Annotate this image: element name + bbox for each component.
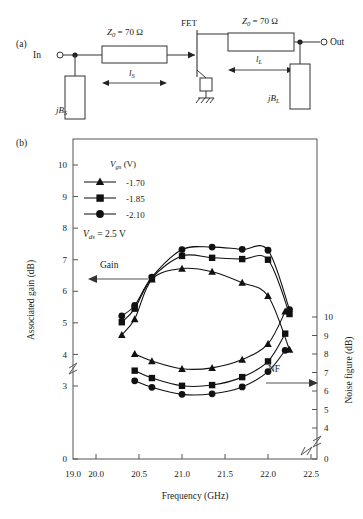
z0-load-label: Z0 = 70 Ω <box>242 16 278 27</box>
svg-text:6: 6 <box>324 386 329 396</box>
svg-text:10: 10 <box>58 160 68 170</box>
chart-series-curves <box>118 244 293 398</box>
svg-text:22.0: 22.0 <box>260 469 276 479</box>
plot-frame <box>73 139 317 459</box>
svg-text:22.5: 22.5 <box>303 469 319 479</box>
z0-source-label: Z0 = 70 Ω <box>107 27 143 38</box>
series-2 <box>119 253 293 326</box>
series-1 <box>118 265 293 353</box>
panel-a-circuit: (a) In jBS Z0 = 70 Ω lS FET <box>16 16 345 119</box>
svg-text:3: 3 <box>63 381 68 391</box>
gain-annotation-label: Gain <box>100 260 119 270</box>
series-3 <box>118 244 293 320</box>
panel-a-label: (a) <box>16 39 27 50</box>
source-dim-arrow-left-icon <box>102 80 109 86</box>
svg-text:20.0: 20.0 <box>88 469 104 479</box>
circle-marker-icon <box>96 210 104 218</box>
legend-item-3: -2.10 <box>84 210 145 220</box>
legend-label-1: -1.70 <box>126 178 145 188</box>
svg-text:9: 9 <box>324 331 329 341</box>
source-length-label: lS <box>129 68 136 79</box>
svg-text:8: 8 <box>63 223 68 233</box>
load-dim-arrow-left-icon <box>228 67 235 73</box>
svg-text:10: 10 <box>324 312 334 322</box>
fet-label: FET <box>181 18 198 28</box>
load-length-label: lL <box>256 54 263 65</box>
svg-text:9: 9 <box>63 192 68 202</box>
load-susceptance-box <box>290 64 310 109</box>
source-dim-arrow-right-icon <box>160 80 167 86</box>
page-bleed-text <box>0 0 363 10</box>
svg-text:20.5: 20.5 <box>131 469 147 479</box>
circuit-out-label: Out <box>330 37 345 47</box>
legend-title: Vgs (V) <box>110 159 136 170</box>
y-axis-title: Associated gain (dB) <box>26 260 37 340</box>
svg-text:5: 5 <box>324 405 329 415</box>
square-marker-icon <box>96 194 103 201</box>
svg-text:7: 7 <box>324 368 329 378</box>
svg-text:5: 5 <box>63 318 68 328</box>
svg-text:4: 4 <box>63 350 68 360</box>
series-5 <box>132 330 289 389</box>
svg-text:7: 7 <box>63 255 68 265</box>
nf-annotation-label: NF <box>268 364 280 374</box>
panel-b-label: (b) <box>16 138 27 149</box>
svg-text:0: 0 <box>63 454 68 464</box>
signal-arrow-icon <box>188 52 195 59</box>
svg-text:0: 0 <box>324 454 329 464</box>
figure-svg: (a) In jBS Z0 = 70 Ω lS FET <box>0 0 363 519</box>
source-transmission-line <box>102 46 167 63</box>
triangle-marker-icon <box>96 178 104 185</box>
load-transmission-line <box>228 33 294 51</box>
source-susceptance-box <box>65 76 85 119</box>
series-6 <box>131 347 288 398</box>
vds-annotation: Vds = 2.5 V <box>83 229 126 240</box>
svg-text:21.5: 21.5 <box>217 469 233 479</box>
y2-axis-title: Noise figure (dB) <box>344 336 355 403</box>
svg-text:8: 8 <box>324 349 329 359</box>
gain-arrow-left-icon <box>88 275 97 283</box>
fet-source-element <box>200 78 212 91</box>
figure-container: (a) In jBS Z0 = 70 Ω lS FET <box>0 0 363 519</box>
x-axis-title: Frequency (GHz) <box>162 491 229 502</box>
legend-label-2: -1.85 <box>126 194 145 204</box>
out-terminal-icon <box>321 39 327 45</box>
legend-label-3: -2.10 <box>126 210 145 220</box>
ground-symbol-icon <box>196 98 214 103</box>
fet-source-wire <box>197 70 206 78</box>
chart-legend: Vgs (V) -1.70 -1.85 -2.10 <box>84 159 145 220</box>
svg-text:4: 4 <box>324 423 329 433</box>
svg-text:6: 6 <box>63 286 68 296</box>
legend-item-1: -1.70 <box>84 178 145 188</box>
svg-text:19.0: 19.0 <box>65 469 81 479</box>
bottom-axis-break-icon <box>301 447 312 455</box>
legend-item-2: -1.85 <box>84 194 145 204</box>
panel-b-chart: (b) 345678910045678910019.020.020.521.02… <box>16 138 355 502</box>
load-susceptance-label: jBL <box>267 93 280 104</box>
circuit-in-label: In <box>33 50 41 60</box>
in-terminal-icon <box>57 52 63 58</box>
chart-axis-ticks: 345678910045678910019.020.020.521.021.52… <box>58 160 334 479</box>
svg-text:21.0: 21.0 <box>174 469 190 479</box>
